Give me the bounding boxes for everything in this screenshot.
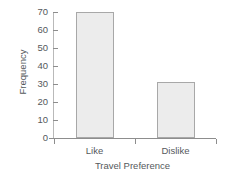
y-tick-mark — [53, 30, 58, 31]
x-tick-mark — [135, 139, 136, 144]
x-tick-label: Dislike — [136, 145, 216, 157]
x-tick-mark — [216, 139, 217, 144]
y-tick-mark — [53, 120, 58, 121]
x-tick-label: Like — [55, 145, 135, 157]
y-tick-mark — [53, 84, 58, 85]
y-tick-label: 0 — [22, 133, 48, 143]
bar — [157, 82, 195, 138]
y-tick-label: 20 — [22, 97, 48, 107]
x-tick-mark — [54, 139, 55, 144]
y-tick-mark — [53, 48, 58, 49]
bar — [76, 12, 114, 138]
y-tick-label: 40 — [22, 61, 48, 71]
y-tick-label: 50 — [22, 43, 48, 53]
y-tick-label: 10 — [22, 115, 48, 125]
y-tick-label: 60 — [22, 25, 48, 35]
y-tick-label: 70 — [22, 7, 48, 17]
plot-area: 010203040506070 Travel Preference LikeDi… — [0, 0, 228, 179]
x-axis-title: Travel Preference — [49, 160, 216, 172]
y-tick-label: 30 — [22, 79, 48, 89]
y-tick-mark — [53, 102, 58, 103]
y-tick-mark — [53, 12, 58, 13]
x-axis-line — [49, 138, 216, 139]
bar-chart-figure: Frequency 010203040506070 Travel Prefere… — [0, 0, 228, 179]
y-tick-mark — [53, 66, 58, 67]
